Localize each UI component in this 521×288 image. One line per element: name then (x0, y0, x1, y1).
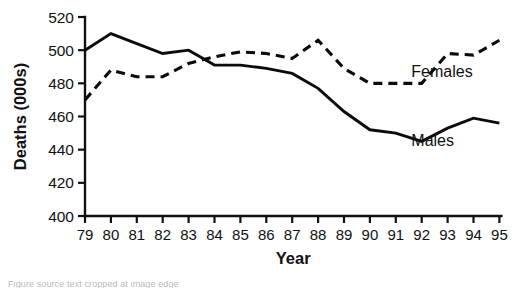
series-label-females: Females (411, 63, 472, 80)
x-axis-tick-label: 91 (387, 226, 404, 243)
x-axis-tick-label: 88 (310, 226, 327, 243)
x-axis-tick-label: 87 (284, 226, 301, 243)
x-axis-tick-label: 94 (465, 226, 482, 243)
x-axis-tick-label: 86 (258, 226, 275, 243)
y-axis-tick-label: 420 (48, 174, 74, 191)
caption-sliver: Figure source text cropped at image edge (0, 281, 521, 288)
y-axis-title: Deaths (000s) (11, 63, 29, 170)
x-axis-tick-label: 92 (413, 226, 430, 243)
x-axis-tick-label: 80 (103, 226, 120, 243)
x-axis-tick-label: 95 (491, 226, 508, 243)
caption-sliver-text: Figure source text cropped at image edge (0, 281, 521, 288)
y-axis-tick-label: 500 (48, 42, 74, 59)
y-axis-tick-label: 400 (48, 208, 74, 225)
x-axis-tick-label: 79 (77, 226, 94, 243)
x-axis-tick-label: 90 (362, 226, 379, 243)
x-axis-tick-label: 82 (154, 226, 171, 243)
x-axis-tick-label: 83 (180, 226, 197, 243)
x-axis-tick-label: 81 (128, 226, 145, 243)
y-axis-tick-label: 520 (48, 9, 74, 26)
x-axis-tick-label: 85 (232, 226, 249, 243)
x-axis-title: Year (276, 249, 311, 267)
y-axis-tick-label: 440 (48, 141, 74, 158)
y-axis-tick-label: 460 (48, 108, 74, 125)
y-axis-tick-label: 480 (48, 75, 74, 92)
x-axis-tick-label: 89 (336, 226, 353, 243)
x-axis-tick-label: 84 (206, 226, 223, 243)
x-axis-tick-label: 93 (439, 226, 456, 243)
deaths-by-year-line-chart: 4004204404604805005207980818283848586878… (0, 0, 521, 288)
series-label-males: Males (411, 132, 454, 149)
